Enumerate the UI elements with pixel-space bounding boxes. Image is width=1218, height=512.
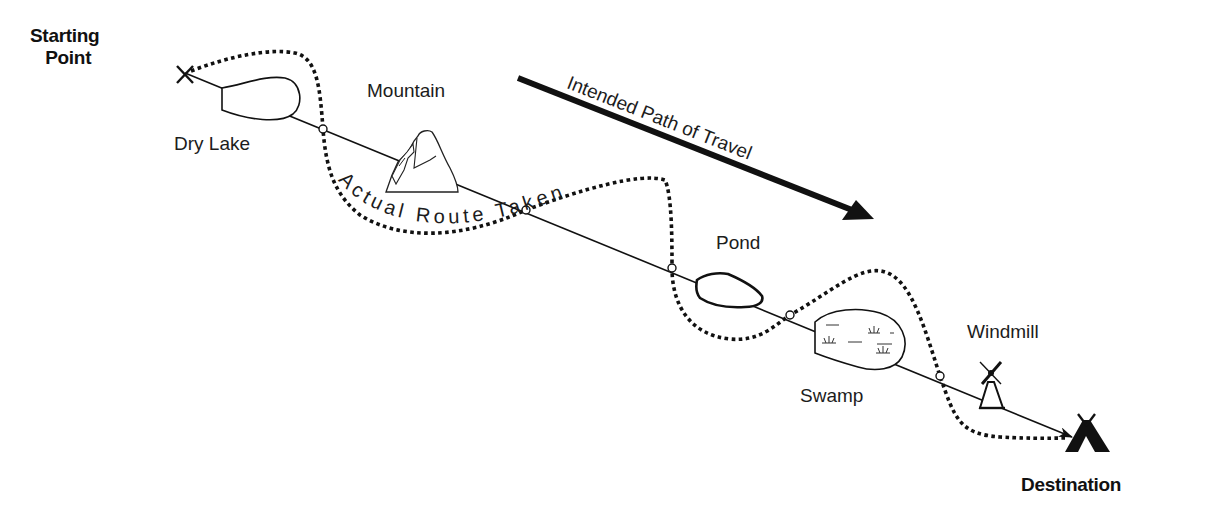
- dry-lake-icon: [222, 77, 300, 119]
- destination-label: Destination: [1021, 474, 1121, 496]
- windmill-icon: [979, 362, 1005, 408]
- pond-icon: [696, 273, 762, 307]
- teepee-icon: [1065, 414, 1110, 452]
- circle-marker-icon: [936, 372, 944, 380]
- circle-marker-icon: [786, 311, 794, 319]
- mountain-label: Mountain: [367, 80, 445, 102]
- circle-marker-icon: [668, 264, 676, 272]
- navigation-diagram: Actual Route Taken: [0, 0, 1218, 512]
- arrow-right-down-icon: [518, 78, 874, 220]
- swamp-label: Swamp: [800, 385, 863, 407]
- pond-label: Pond: [716, 232, 760, 254]
- mountain-icon: [386, 131, 458, 192]
- starting-point-label: Starting Point: [30, 25, 99, 69]
- starting-point-line2: Point: [30, 47, 99, 69]
- swamp-icon: [815, 310, 905, 370]
- circle-marker-icon: [319, 125, 327, 133]
- starting-point-line1: Starting: [30, 25, 99, 47]
- windmill-label: Windmill: [967, 321, 1039, 343]
- intended-path-line: [185, 73, 1072, 437]
- dry-lake-label: Dry Lake: [174, 133, 250, 155]
